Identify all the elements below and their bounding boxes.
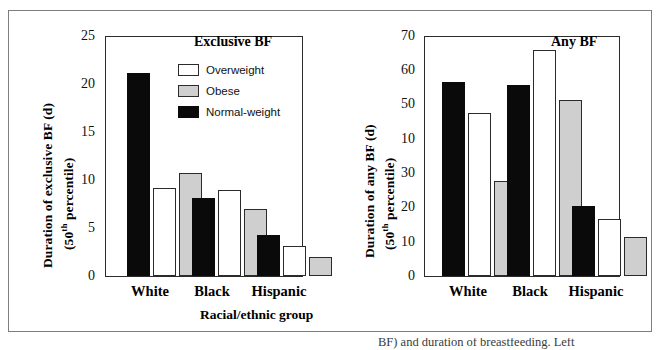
figure-canvas: Duration of exclusive BF (d) (50th perce… — [0, 0, 662, 350]
plot-area-left — [105, 36, 303, 277]
y-tick-right-60: 60 — [382, 63, 415, 77]
y-axis-title-left-text: Duration of exclusive BF (d) — [40, 103, 55, 268]
bar-layer-left — [106, 37, 302, 276]
y-tick-right-10: 10 — [382, 235, 415, 249]
y-tick-left-10: 10 — [62, 173, 95, 187]
y-tick-right-40: 10 — [382, 132, 415, 146]
y-axis-title-left: Duration of exclusive BF (d) — [40, 103, 56, 268]
legend-swatch-overweight — [178, 64, 199, 76]
bar-right-white-normal-weight[interactable] — [442, 82, 465, 276]
bar-left-hispanic-obese[interactable] — [309, 257, 332, 276]
y-axis-title-right-text: Duration of any BF (d) — [362, 124, 377, 258]
y-tick-right-0: 0 — [382, 269, 415, 283]
figure-caption-text: BF) and duration of breastfeeding. Left — [378, 338, 574, 350]
y-tick-left-5: 5 — [62, 221, 95, 235]
x-tick-right-hispanic: Hispanic — [551, 283, 641, 300]
bar-right-white-overweight[interactable] — [468, 113, 491, 276]
bar-right-hispanic-normal-weight[interactable] — [572, 206, 595, 276]
plot-area-right — [424, 36, 620, 277]
legend-swatch-normal-weight — [178, 106, 199, 118]
y-tick-right-30: 30 — [382, 166, 415, 180]
x-axis-title: Racial/ethnic group — [200, 307, 313, 323]
bar-left-white-normal-weight[interactable] — [127, 73, 150, 276]
legend-label-obese: Obese — [206, 83, 240, 99]
legend-swatch-obese — [178, 85, 199, 97]
y-tick-right-50: 50 — [382, 97, 415, 111]
legend-label-overweight: Overweight — [206, 62, 264, 78]
y-tick-left-25: 25 — [62, 29, 95, 43]
panel-title-left: Exclusive BF — [194, 34, 272, 50]
y-tick-left-15: 15 — [62, 125, 95, 139]
y-tick-left-20: 20 — [62, 77, 95, 91]
y-tick-right-70: 70 — [382, 29, 415, 43]
bar-right-hispanic-obese[interactable] — [624, 237, 647, 276]
y-axis-subtitle-right-sup: th — [380, 224, 390, 232]
bar-right-black-normal-weight[interactable] — [507, 85, 530, 276]
bar-layer-right — [425, 37, 619, 276]
bar-left-black-normal-weight[interactable] — [192, 198, 215, 276]
bar-right-hispanic-overweight[interactable] — [598, 219, 621, 276]
y-axis-subtitle-left: (50th percentile) — [59, 158, 77, 250]
y-tick-right-20: 20 — [382, 200, 415, 214]
panel-title-right: Any BF — [551, 34, 597, 50]
bar-left-white-overweight[interactable] — [153, 188, 176, 276]
x-tick-left-hispanic: Hispanic — [234, 283, 324, 300]
y-axis-subtitle-left-suffix: percentile) — [61, 158, 76, 224]
bar-left-black-overweight[interactable] — [218, 190, 241, 276]
y-tick-left-0: 0 — [62, 269, 95, 283]
y-axis-title-right: Duration of any BF (d) — [362, 124, 378, 258]
bar-right-black-overweight[interactable] — [533, 50, 556, 276]
bar-left-hispanic-overweight[interactable] — [283, 246, 306, 276]
bar-left-hispanic-normal-weight[interactable] — [257, 235, 280, 276]
legend-label-normal-weight: Normal-weight — [206, 104, 280, 120]
figure-caption: BF) and duration of breastfeeding. Left — [0, 338, 662, 350]
